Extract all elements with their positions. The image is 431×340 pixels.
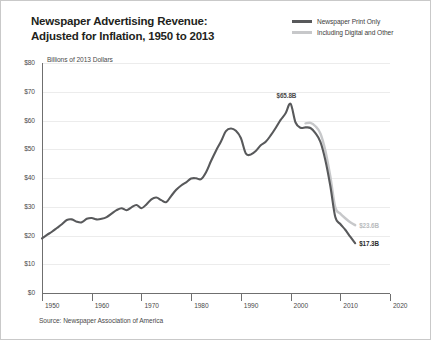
annotation-print-end: $17.3B (359, 240, 379, 247)
chart-figure: Newspaper Advertising Revenue: Adjusted … (0, 0, 431, 340)
annotation-peak: $65.8B (277, 92, 297, 99)
x-axis-tick-label-2020: 2020 (393, 302, 407, 309)
x-axis-tick-label-2000: 2000 (294, 302, 308, 309)
x-axis-tick-label-1950: 1950 (45, 302, 59, 309)
x-axis-tick-label-2010: 2010 (343, 302, 357, 309)
x-axis-tick-label-1980: 1980 (194, 302, 208, 309)
x-axis-tick-1980 (191, 294, 192, 301)
y-axis-tick-label-60: $60 (9, 117, 35, 124)
y-axis-tick-label-20: $20 (9, 232, 35, 239)
y-axis-tick-label-0: $0 (9, 289, 35, 296)
y-axis-tick-label-10: $10 (9, 260, 35, 267)
y-axis-tick-label-70: $70 (9, 88, 35, 95)
x-axis-tick-label-1990: 1990 (244, 302, 258, 309)
x-axis-tick-2010 (340, 294, 341, 301)
y-axis-tick-label-30: $30 (9, 203, 35, 210)
y-axis-tick-label-80: $80 (9, 59, 35, 66)
x-axis-tick-1990 (241, 294, 242, 301)
x-axis-tick-1970 (141, 294, 142, 301)
series-line-print (42, 104, 355, 244)
x-axis-tick-1960 (92, 294, 93, 301)
source-note: Source: Newspaper Association of America (39, 317, 163, 324)
x-axis-tick-label-1960: 1960 (95, 302, 109, 309)
x-axis-tick-2020 (390, 294, 391, 301)
x-axis-tick-2000 (291, 294, 292, 301)
series-line-digital (305, 123, 355, 225)
x-axis-tick-1950 (42, 294, 43, 301)
x-axis-tick-label-1970: 1970 (144, 302, 158, 309)
y-axis-tick-label-50: $50 (9, 145, 35, 152)
chart-lines (1, 1, 431, 340)
y-axis-tick-label-40: $40 (9, 174, 35, 181)
annotation-digital-end: $23.6B (359, 222, 379, 229)
